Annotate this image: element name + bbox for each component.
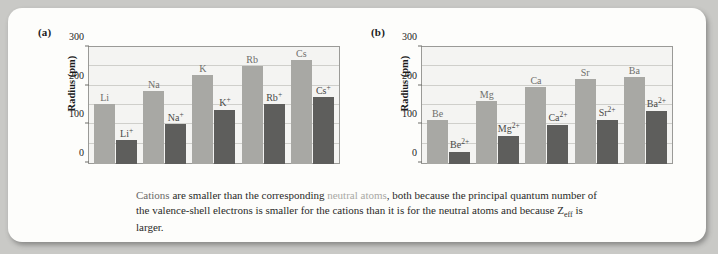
bar-group-na: NaNa+ — [143, 46, 186, 164]
bar-k: K — [192, 75, 213, 164]
panel-b-bar-series: BeBe2+MgMg2+CaCa2+SrSr2+BaBa2+ — [421, 46, 673, 164]
bar-label: Na — [148, 80, 160, 90]
bar-group-rb: RbRb+ — [242, 46, 285, 164]
bar-li-plus: Li+ — [116, 140, 137, 164]
bar-label: Ca2+ — [548, 111, 567, 123]
bar-ca2-plus: Ca2+ — [547, 125, 568, 164]
bar-label: Rb+ — [266, 91, 282, 103]
bar-group-sr: SrSr2+ — [575, 46, 618, 164]
bar-label: Mg2+ — [498, 122, 520, 134]
panel-b-tag: (b) — [371, 26, 385, 38]
bar-label: Ca — [530, 76, 541, 86]
bar-sr2-plus: Sr2+ — [597, 120, 618, 164]
bar-group-li: LiLi+ — [94, 46, 137, 164]
y-axis-tick-label: 100 — [402, 108, 417, 119]
bar-li: Li — [94, 104, 115, 164]
panel-a-bar-series: LiLi+NaNa+KK+RbRb+CsCs+ — [88, 46, 340, 164]
figure-panel: (a) Radius (pm) 0100200300 LiLi+NaNa+KK+… — [8, 8, 706, 242]
bar-be2-plus: Be2+ — [449, 152, 470, 164]
bar-ba2-plus: Ba2+ — [646, 111, 667, 164]
bar-cs: Cs — [291, 60, 312, 164]
bar-label: Li — [100, 93, 109, 103]
bar-label: Sr — [581, 68, 590, 78]
bar-rb: Rb — [242, 66, 263, 164]
bar-ba: Ba — [624, 77, 645, 164]
caption-mid-text: are smaller than the corresponding — [170, 189, 328, 201]
bar-label: Na+ — [168, 111, 184, 123]
bar-label: Mg — [480, 90, 494, 100]
y-axis-tick-label: 300 — [402, 31, 417, 42]
bar-group-k: KK+ — [192, 46, 235, 164]
bar-be: Be — [427, 120, 448, 164]
bar-label: Li+ — [120, 127, 133, 139]
panel-a-tag: (a) — [38, 26, 51, 38]
bar-group-cs: CsCs+ — [291, 46, 334, 164]
bar-label: Sr2+ — [599, 106, 616, 118]
bar-group-ca: CaCa2+ — [525, 46, 568, 164]
bar-label: Cs — [296, 49, 307, 59]
bar-label: K — [199, 64, 206, 74]
y-axis-tick-label: 0 — [412, 147, 417, 158]
chart-panel-b: (b) Radius (pm) 0100200300 BeBe2+MgMg2+C… — [363, 26, 683, 176]
figure-caption: Cations are smaller than the correspondi… — [136, 188, 606, 235]
bar-label: Ba — [629, 66, 640, 76]
bar-group-mg: MgMg2+ — [476, 46, 519, 164]
bar-ca: Ca — [525, 87, 546, 164]
panel-b-plot-area: 0100200300 BeBe2+MgMg2+CaCa2+SrSr2+BaBa2… — [421, 46, 673, 164]
y-axis-tick-label: 100 — [69, 108, 84, 119]
bar-sr: Sr — [575, 79, 596, 164]
y-axis-tick-label: 0 — [79, 147, 84, 158]
bar-label: K+ — [219, 96, 230, 108]
bar-label: Cs+ — [316, 84, 331, 96]
bar-mg: Mg — [476, 101, 497, 164]
bar-cs-plus: Cs+ — [313, 97, 334, 164]
bar-na: Na — [143, 91, 164, 164]
panel-a-plot-area: 0100200300 LiLi+NaNa+KK+RbRb+CsCs+ — [88, 46, 340, 164]
bar-group-be: BeBe2+ — [427, 46, 470, 164]
bar-label: Be — [432, 109, 443, 119]
bar-rb-plus: Rb+ — [264, 104, 285, 164]
y-axis-tick-label: 300 — [69, 31, 84, 42]
bar-label: Ba2+ — [647, 97, 666, 109]
bar-k-plus: K+ — [214, 110, 235, 164]
caption-neutral-atoms-term: neutral atoms — [327, 189, 387, 201]
bar-mg2-plus: Mg2+ — [498, 136, 519, 164]
y-axis-tick-label: 200 — [402, 69, 417, 80]
chart-panel-a: (a) Radius (pm) 0100200300 LiLi+NaNa+KK+… — [30, 26, 350, 176]
bar-label: Be2+ — [450, 138, 469, 150]
bar-group-ba: BaBa2+ — [624, 46, 667, 164]
bar-na-plus: Na+ — [165, 124, 186, 164]
y-axis-tick-label: 200 — [69, 69, 84, 80]
bar-label: Rb — [246, 55, 258, 65]
caption-cations-term: Cations — [136, 189, 170, 201]
caption-zeff-subscript: eff — [564, 210, 573, 219]
